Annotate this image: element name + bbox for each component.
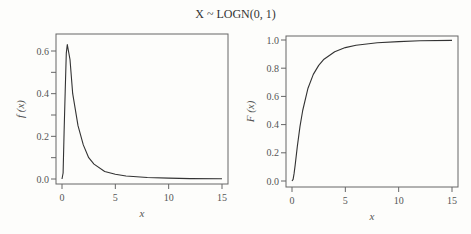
plot-frame xyxy=(286,36,458,187)
x-tick-label: 0 xyxy=(290,195,295,206)
y-tick-label: 0.2 xyxy=(37,131,50,142)
y-tick-label: 0.8 xyxy=(267,63,280,74)
x-axis-label: x xyxy=(369,210,375,222)
y-tick-label: 0.6 xyxy=(37,46,50,57)
y-axis-label: f (x) xyxy=(14,100,27,118)
x-tick-label: 5 xyxy=(113,192,118,203)
pdf-plot: 0510150.00.20.40.6xf (x) xyxy=(14,34,228,219)
y-axis-label: F (x) xyxy=(244,100,257,123)
x-tick-label: 0 xyxy=(60,192,65,203)
x-axis-label: x xyxy=(139,207,145,219)
cdf-plot: 0510150.00.20.40.60.81.0xF (x) xyxy=(244,35,458,223)
y-tick-label: 0.4 xyxy=(267,119,280,130)
y-tick-label: 1.0 xyxy=(267,35,280,46)
x-tick-label: 15 xyxy=(447,195,457,206)
y-tick-label: 0.4 xyxy=(37,88,50,99)
y-tick-label: 0.0 xyxy=(267,176,280,187)
data-curve xyxy=(292,40,452,181)
x-tick-label: 10 xyxy=(164,192,174,203)
x-tick-label: 15 xyxy=(217,192,227,203)
x-tick-label: 10 xyxy=(394,195,404,206)
y-tick-label: 0.6 xyxy=(267,91,280,102)
plot-frame xyxy=(56,34,228,184)
x-tick-label: 5 xyxy=(343,195,348,206)
figure: X ~ LOGN(0, 1) 0510150.00.20.40.6xf (x) … xyxy=(0,0,471,234)
plots-canvas: 0510150.00.20.40.6xf (x) 0510150.00.20.4… xyxy=(0,0,471,234)
y-tick-label: 0.2 xyxy=(267,147,280,158)
y-tick-label: 0.0 xyxy=(37,174,50,185)
data-curve xyxy=(62,45,222,179)
